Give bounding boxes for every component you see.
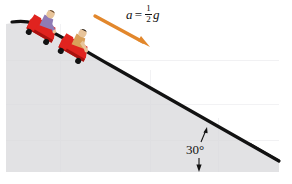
gravity-symbol: g [153,7,160,22]
angle-label: 30° [186,142,204,158]
hillside-fill [6,23,279,172]
equals-sign: = [133,7,145,22]
fraction-numerator: 1 [145,4,152,13]
scene-graphic [0,0,292,184]
acceleration-equation: a=12g [126,4,160,24]
acceleration-variable: a [126,7,133,22]
one-half-fraction: 12 [145,4,152,24]
physics-incline-figure: a=12g 30° [0,0,292,184]
fraction-denominator: 2 [145,15,152,24]
